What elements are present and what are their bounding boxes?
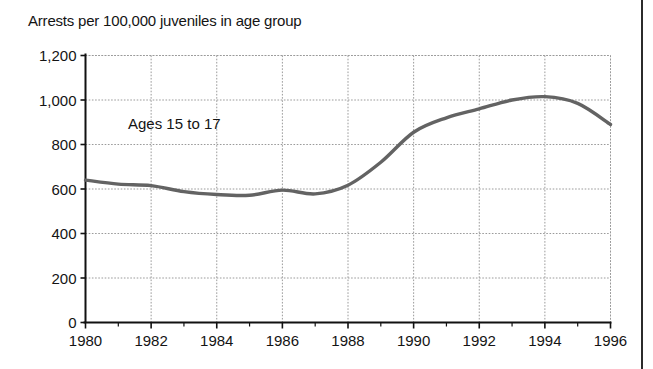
x-axis-tick-label: 1980 bbox=[69, 332, 102, 349]
page-edge-rule bbox=[641, 0, 643, 369]
x-axis-tick-label: 1996 bbox=[594, 332, 627, 349]
chart-figure: Arrests per 100,000 juveniles in age gro… bbox=[0, 0, 653, 369]
line-chart-plot: 02004006008001,0001,200 1980198219841986… bbox=[0, 0, 653, 369]
x-axis-tick-label: 1984 bbox=[200, 332, 233, 349]
y-axis-tick-label: 200 bbox=[51, 270, 76, 287]
y-axis-tick-label: 1,200 bbox=[39, 47, 77, 64]
x-axis-tick-label: 1992 bbox=[463, 332, 496, 349]
x-axis-tick-label: 1982 bbox=[134, 332, 167, 349]
x-axis-tick-label: 1988 bbox=[331, 332, 364, 349]
series-annotation-group: Ages 15 to 17 bbox=[128, 115, 221, 132]
y-axis-tick-label: 600 bbox=[51, 181, 76, 198]
y-axis-tick-label: 1,000 bbox=[39, 92, 77, 109]
y-axis-tick-label: 0 bbox=[68, 314, 76, 331]
x-axis-tick-label: 1994 bbox=[528, 332, 561, 349]
x-axis-tick-label: 1990 bbox=[397, 332, 430, 349]
x-axis-tick-labels: 198019821984198619881990199219941996 bbox=[69, 332, 627, 349]
y-axis-tick-label: 400 bbox=[51, 225, 76, 242]
x-axis-tick-label: 1986 bbox=[266, 332, 299, 349]
y-axis-tick-label: 800 bbox=[51, 136, 76, 153]
series-annotation-label: Ages 15 to 17 bbox=[128, 115, 221, 132]
y-axis-tick-labels: 02004006008001,0001,200 bbox=[39, 47, 77, 331]
